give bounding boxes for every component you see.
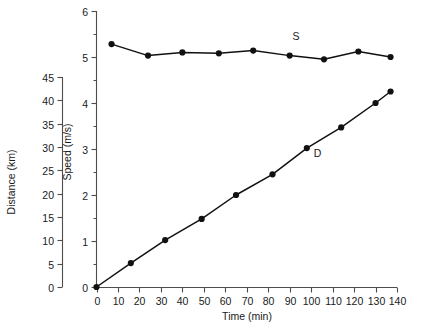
time-tick-label: 0 [95, 295, 101, 307]
speed-data-point [355, 48, 361, 54]
distance-tick-label: 30 [42, 142, 54, 154]
distance-data-point [93, 284, 99, 290]
time-tick-label: 120 [346, 295, 364, 307]
speed-data-point [108, 41, 114, 47]
speed-data-point [321, 56, 327, 62]
speed-tick-label: 3 [82, 144, 88, 156]
speed-data-point [287, 53, 293, 59]
time-tick-label: 130 [368, 295, 386, 307]
speed-data-point [179, 49, 185, 55]
speed-data-point [387, 54, 393, 60]
time-tick-label: 60 [220, 295, 232, 307]
speed-tick-label: 2 [82, 190, 88, 202]
distance-data-point [233, 192, 239, 198]
speed-tick-label: 1 [82, 236, 88, 248]
time-tick-label: 110 [325, 295, 342, 307]
speed-data-point [216, 50, 222, 56]
time-axis-tick-labels: 0102030405060708090100110120130140 [95, 295, 407, 307]
time-tick-label: 140 [389, 295, 407, 307]
time-tick-label: 40 [177, 295, 189, 307]
distance-data-point [304, 145, 310, 151]
distance-tick-label: 40 [42, 95, 54, 107]
distance-data-point [128, 260, 134, 266]
series-label-s: S [293, 30, 300, 42]
time-tick-label: 70 [242, 295, 254, 307]
time-tick-label: 80 [263, 295, 275, 307]
time-tick-label: 30 [156, 295, 168, 307]
speed-axis-title: Speed (m/s) [61, 123, 73, 180]
distance-data-point [338, 124, 344, 130]
series-label-d: D [314, 147, 322, 159]
distance-tick-label: 35 [42, 119, 54, 131]
time-tick-label: 20 [134, 295, 146, 307]
time-tick-label: 10 [113, 295, 125, 307]
distance-axis-title: Distance (km) [5, 150, 17, 215]
distance-data-point [199, 216, 205, 222]
distance-tick-label: 45 [42, 72, 54, 84]
speed-tick-label: 5 [82, 52, 88, 64]
distance-data-point [162, 237, 168, 243]
speed-tick-label: 6 [82, 6, 88, 18]
distance-tick-label: 15 [42, 212, 54, 224]
speed-data-point [145, 53, 151, 59]
distance-tick-label: 25 [42, 165, 54, 177]
time-axis-title: Time (min) [222, 310, 272, 322]
time-tick-label: 100 [303, 295, 321, 307]
distance-data-point [269, 171, 275, 177]
distance-tick-label: 5 [48, 259, 54, 271]
time-tick-label: 90 [285, 295, 297, 307]
speed-data-point [250, 47, 256, 53]
speed-tick-label: 4 [82, 98, 88, 110]
distance-data-point [387, 88, 393, 94]
distance-tick-label: 10 [42, 235, 54, 247]
time-tick-label: 50 [199, 295, 211, 307]
speed-tick-label: 0 [82, 282, 88, 294]
distance-tick-label: 20 [42, 189, 54, 201]
distance-tick-label: 0 [48, 282, 54, 294]
distance-data-point [372, 100, 378, 106]
speed-distance-vs-time-chart: 051015202530354045 Distance (km) 0123456… [0, 0, 422, 329]
